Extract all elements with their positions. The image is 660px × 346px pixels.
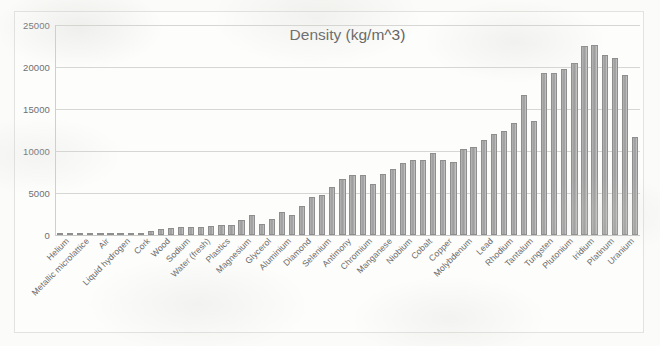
bar [97, 233, 103, 235]
bar [450, 162, 456, 235]
bar [581, 46, 587, 236]
bar [107, 233, 113, 235]
bar [269, 219, 275, 235]
bar [400, 163, 406, 235]
bar [511, 123, 517, 235]
y-axis-line [55, 25, 56, 236]
bar [128, 233, 134, 235]
bar [148, 231, 154, 235]
bar [460, 149, 466, 235]
bar [67, 233, 73, 235]
bar [380, 174, 386, 235]
bar [299, 206, 305, 235]
bar [420, 160, 426, 235]
bar [370, 184, 376, 235]
y-axis-tick-label: 10000 [4, 146, 50, 157]
bar [77, 233, 83, 235]
plot-area [55, 25, 640, 235]
y-axis-tick-label: 25000 [4, 20, 50, 31]
bar [198, 227, 204, 235]
bar [632, 137, 638, 235]
bar [228, 225, 234, 236]
bar [249, 215, 255, 235]
bar [279, 212, 285, 235]
bar [339, 179, 345, 235]
bar-series [55, 25, 640, 235]
bar [521, 95, 527, 235]
bar [622, 75, 628, 235]
bar [591, 45, 597, 235]
bar [602, 55, 608, 235]
bar [390, 169, 396, 235]
bar [289, 215, 295, 235]
bar [349, 175, 355, 235]
bar [470, 147, 476, 235]
bar [309, 197, 315, 235]
chart-title: Density (kg/m^3) [55, 26, 640, 44]
x-axis-tick-labels: HeliumMetallic microlatticeAirLiquid hyd… [55, 236, 640, 341]
x-axis-tick-label: Air [97, 236, 112, 251]
bar [188, 227, 194, 235]
y-axis-tick-label: 20000 [4, 62, 50, 73]
bar [612, 58, 618, 235]
bar [430, 153, 436, 235]
bar [541, 73, 547, 235]
bar [440, 160, 446, 235]
y-axis-tick-label: 5000 [4, 188, 50, 199]
y-axis-tick-label: 15000 [4, 104, 50, 115]
bar [158, 229, 164, 235]
bar [551, 73, 557, 235]
bar [319, 195, 325, 235]
bar [138, 233, 144, 235]
bar [117, 233, 123, 235]
bar [238, 220, 244, 235]
y-axis-tick-label: 0 [4, 230, 50, 241]
bar [178, 227, 184, 235]
bar [218, 225, 224, 235]
bar [168, 228, 174, 235]
y-axis-tick-labels: 0500010000150002000025000 [0, 25, 50, 235]
bar [501, 131, 507, 235]
bar [561, 69, 567, 235]
bar [531, 121, 537, 235]
bar [87, 233, 93, 235]
bar [329, 187, 335, 235]
bar [491, 134, 497, 235]
x-axis-tick-label: Cork [132, 236, 152, 256]
bar [481, 140, 487, 235]
bar [410, 160, 416, 235]
bar [259, 224, 265, 235]
bar [208, 226, 214, 235]
bar [57, 233, 63, 235]
bar [360, 175, 366, 235]
bar [571, 63, 577, 235]
